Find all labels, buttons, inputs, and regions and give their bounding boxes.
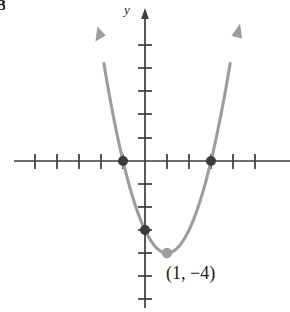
left-branch-arrowhead [95, 27, 105, 42]
vertex-coordinate-label: (1, −4) [166, 264, 215, 282]
vertex-dot [162, 248, 172, 258]
right-branch-arrowhead [232, 24, 243, 39]
curve-helper-2 [101, 34, 233, 252]
plotted-points [118, 156, 216, 258]
parabola-curve [101, 34, 233, 253]
coordinate-plane [0, 0, 290, 312]
parabola-figure: B y [0, 0, 290, 312]
y-intercept-dot [140, 225, 150, 235]
x-intercept-left-dot [118, 156, 128, 166]
y-axis [138, 8, 152, 308]
x-axis [14, 154, 290, 169]
x-intercept-right-dot [206, 156, 216, 166]
y-axis-arrowhead [141, 8, 149, 19]
curve-arrowheads [95, 24, 242, 42]
